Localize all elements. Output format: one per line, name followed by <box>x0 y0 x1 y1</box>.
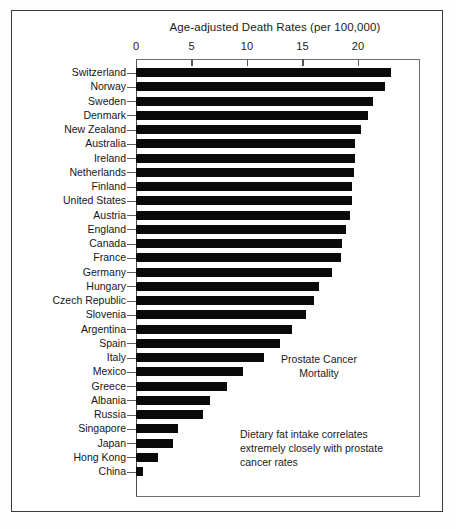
x-tick-mark-10 <box>247 59 248 66</box>
bar-spain <box>136 339 280 348</box>
bar-switzerland <box>136 68 391 77</box>
bar-china <box>136 467 143 476</box>
y-tick-mark-sweden <box>127 101 136 102</box>
bar-england <box>136 225 346 234</box>
bar-singapore <box>136 424 178 433</box>
y-tick-mark-canada <box>127 244 136 245</box>
figure: Age-adjusted Death Rates (per 100,000) 0… <box>0 0 456 529</box>
y-label-united-states: United States <box>63 195 126 206</box>
bar-united-states <box>136 196 352 205</box>
bar-russia <box>136 410 203 419</box>
y-tick-mark-mexico <box>127 372 136 373</box>
y-tick-mark-austria <box>127 215 136 216</box>
bar-germany <box>136 268 332 277</box>
y-tick-mark-england <box>127 229 136 230</box>
y-label-canada: Canada <box>89 238 126 249</box>
y-tick-mark-hong-kong <box>127 457 136 458</box>
bar-slovenia <box>136 310 306 319</box>
y-label-spain: Spain <box>99 338 126 349</box>
bar-mexico <box>136 367 243 376</box>
y-tick-mark-new-zealand <box>127 130 136 131</box>
y-label-greece: Greece <box>92 381 126 392</box>
y-tick-mark-switzerland <box>127 73 136 74</box>
bar-finland <box>136 182 352 191</box>
bar-hungary <box>136 282 319 291</box>
x-tick-label-5: 5 <box>188 40 194 52</box>
y-label-austria: Austria <box>93 210 126 221</box>
bar-ireland <box>136 154 355 163</box>
y-label-switzerland: Switzerland <box>72 67 126 78</box>
y-label-argentina: Argentina <box>81 324 126 335</box>
bar-czech-republic <box>136 296 314 305</box>
y-label-hong-kong: Hong Kong <box>73 452 126 463</box>
y-label-england: England <box>87 224 126 235</box>
y-tick-mark-ireland <box>127 158 136 159</box>
y-label-new-zealand: New Zealand <box>64 124 126 135</box>
y-label-norway: Norway <box>90 81 126 92</box>
bar-albania <box>136 396 210 405</box>
y-tick-mark-argentina <box>127 329 136 330</box>
axis-right-spine <box>419 59 420 497</box>
y-axis-category-labels: SwitzerlandNorwaySwedenDenmarkNew Zealan… <box>14 0 126 529</box>
bar-france <box>136 253 341 262</box>
y-label-russia: Russia <box>94 409 126 420</box>
y-tick-mark-united-states <box>127 201 136 202</box>
y-label-italy: Italy <box>107 352 126 363</box>
bar-norway <box>136 82 385 91</box>
y-tick-mark-netherlands <box>127 172 136 173</box>
y-tick-mark-albania <box>127 400 136 401</box>
y-tick-mark-denmark <box>127 115 136 116</box>
bar-argentina <box>136 325 292 334</box>
y-label-china: China <box>99 466 126 477</box>
x-tick-label-0: 0 <box>133 40 139 52</box>
bar-hong-kong <box>136 453 158 462</box>
y-label-singapore: Singapore <box>78 423 126 434</box>
bar-new-zealand <box>136 125 361 134</box>
y-label-germany: Germany <box>83 267 126 278</box>
axis-top-spine <box>136 59 420 60</box>
bar-austria <box>136 211 350 220</box>
y-label-czech-republic: Czech Republic <box>52 295 126 306</box>
y-tick-mark-italy <box>127 358 136 359</box>
y-label-japan: Japan <box>97 438 126 449</box>
x-tick-mark-15 <box>302 59 303 66</box>
y-label-denmark: Denmark <box>83 110 126 121</box>
y-tick-mark-singapore <box>127 429 136 430</box>
y-label-albania: Albania <box>91 395 126 406</box>
y-tick-mark-norway <box>127 87 136 88</box>
y-label-sweden: Sweden <box>88 96 126 107</box>
y-label-netherlands: Netherlands <box>69 167 126 178</box>
x-tick-label-20: 20 <box>352 40 364 52</box>
y-tick-mark-australia <box>127 144 136 145</box>
y-tick-mark-france <box>127 258 136 259</box>
bar-denmark <box>136 111 368 120</box>
y-tick-mark-russia <box>127 415 136 416</box>
y-tick-mark-spain <box>127 343 136 344</box>
x-tick-label-10: 10 <box>241 40 253 52</box>
bar-sweden <box>136 97 373 106</box>
bar-netherlands <box>136 168 354 177</box>
y-label-ireland: Ireland <box>94 153 126 164</box>
y-tick-mark-china <box>127 472 136 473</box>
bar-australia <box>136 139 355 148</box>
axis-bottom-spine <box>136 496 420 497</box>
y-label-mexico: Mexico <box>93 366 126 377</box>
y-label-australia: Australia <box>85 138 126 149</box>
bar-italy <box>136 353 264 362</box>
bar-japan <box>136 439 173 448</box>
annotation-dietary-fat-note: Dietary fat intake correlates extremely … <box>240 427 400 469</box>
bar-canada <box>136 239 342 248</box>
x-tick-mark-20 <box>358 59 359 66</box>
chart-title: Age-adjusted Death Rates (per 100,000) <box>120 21 430 33</box>
y-label-finland: Finland <box>92 181 126 192</box>
y-tick-mark-greece <box>127 386 136 387</box>
x-tick-label-15: 15 <box>296 40 308 52</box>
y-label-france: France <box>93 252 126 263</box>
y-tick-mark-japan <box>127 443 136 444</box>
x-tick-mark-0 <box>136 59 137 66</box>
y-label-slovenia: Slovenia <box>86 309 126 320</box>
y-tick-mark-slovenia <box>127 315 136 316</box>
bar-greece <box>136 382 227 391</box>
y-label-hungary: Hungary <box>86 281 126 292</box>
y-tick-mark-czech-republic <box>127 301 136 302</box>
